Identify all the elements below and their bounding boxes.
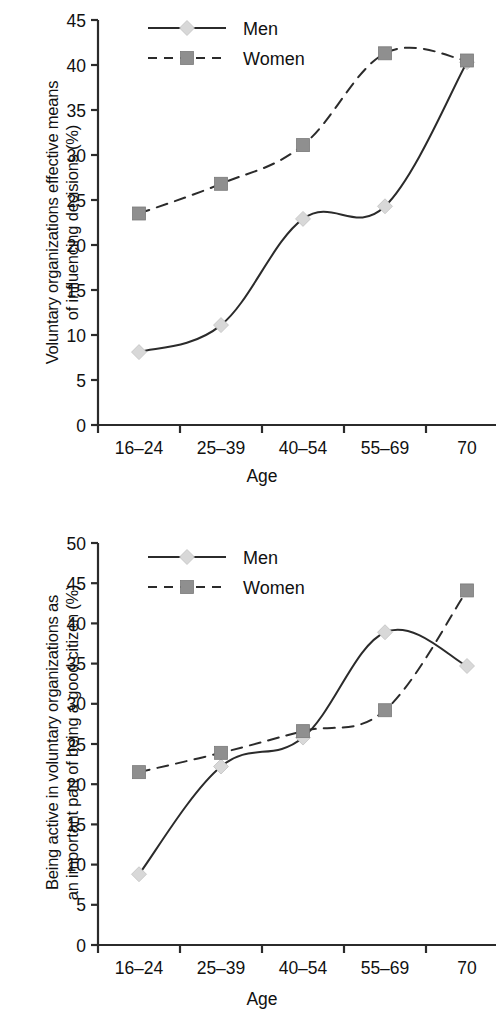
x-axis-tick-label: 55–69 (361, 438, 410, 458)
data-point-marker-square-0 (133, 766, 146, 779)
data-point-marker-diamond-3 (378, 625, 393, 640)
x-axis-title: Age (246, 466, 277, 486)
series-women (133, 584, 474, 779)
y-axis-label-bottom: Being active in voluntary organizations … (42, 540, 82, 945)
data-point-marker-diamond-4 (460, 659, 475, 674)
y-axis-label-bottom-line2: an important part of being a good citize… (62, 540, 82, 945)
x-axis-tick-label: 16–24 (115, 958, 164, 978)
data-point-marker-square-4 (461, 54, 474, 67)
data-point-marker-square-1 (215, 746, 228, 759)
data-point-marker-square-4 (461, 584, 474, 597)
data-point-marker-square-0 (133, 207, 146, 220)
x-axis-title: Age (246, 989, 277, 1009)
series-line-men (139, 630, 467, 875)
y-axis-label-top-line1: Voluntary organizations effective means (43, 81, 61, 365)
chart-being-active-good-citizen: Being active in voluntary organizations … (0, 500, 496, 1014)
y-axis-label-top-line2: of influencing decisions (%) (62, 20, 82, 425)
data-point-marker-diamond-legend (180, 21, 195, 36)
chart-voluntary-organizations-effective-means: Voluntary organizations effective means … (0, 0, 496, 500)
data-point-marker-diamond-0 (132, 345, 147, 360)
y-axis-label-top: Voluntary organizations effective means … (42, 20, 82, 425)
y-axis-label-bottom-line1: Being active in voluntary organizations … (43, 595, 61, 890)
data-point-marker-diamond-0 (132, 867, 147, 882)
x-axis-tick-label: 16–24 (115, 438, 164, 458)
x-axis-tick-label: 40–54 (279, 958, 328, 978)
data-point-marker-square-3 (379, 704, 392, 717)
data-point-marker-square-1 (215, 177, 228, 190)
series-line-men (139, 62, 467, 352)
data-point-marker-square-2 (297, 725, 310, 738)
data-point-marker-diamond-legend (180, 550, 195, 565)
data-point-marker-square-2 (297, 139, 310, 152)
series-men (132, 55, 475, 360)
x-axis-tick-label: 70 (457, 438, 477, 458)
series-line-women (139, 48, 467, 214)
legend: MenWomen (148, 19, 305, 69)
x-axis-tick-label: 55–69 (361, 958, 410, 978)
x-axis-tick-label: 25–39 (197, 958, 246, 978)
legend: MenWomen (148, 548, 305, 598)
legend-label-men: Men (243, 19, 278, 39)
series-men (132, 625, 475, 882)
legend-label-women: Women (243, 578, 305, 598)
legend-label-women: Women (243, 49, 305, 69)
data-point-marker-square-legend (181, 52, 194, 65)
legend-label-men: Men (243, 548, 278, 568)
x-axis-tick-label: 25–39 (197, 438, 246, 458)
x-axis-tick-label: 40–54 (279, 438, 328, 458)
data-point-marker-square-legend (181, 581, 194, 594)
data-point-marker-square-3 (379, 47, 392, 60)
series-women (133, 47, 474, 220)
x-axis-tick-label: 70 (457, 958, 477, 978)
